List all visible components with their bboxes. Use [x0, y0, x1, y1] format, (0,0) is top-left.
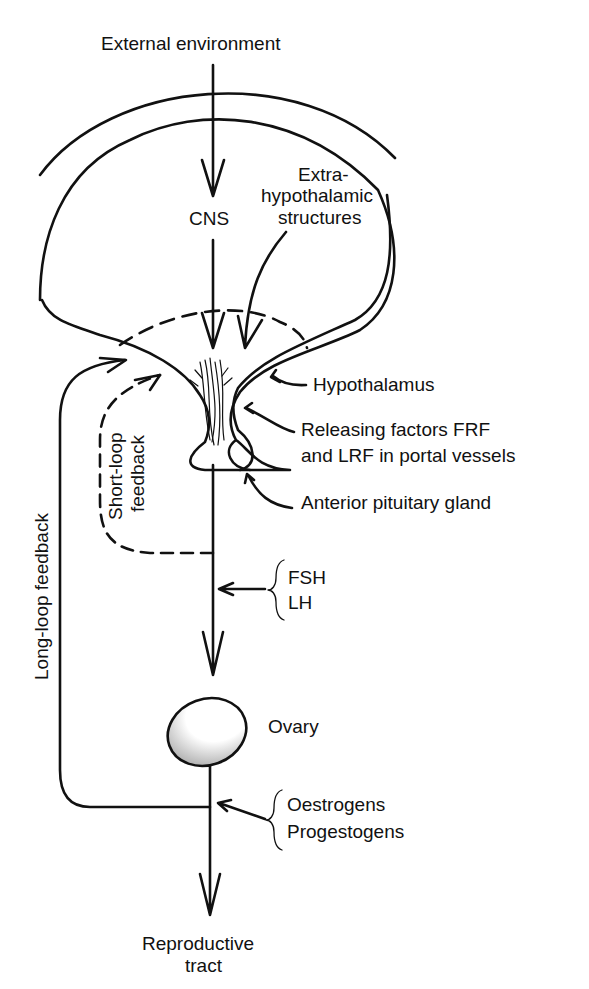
label-reproductive: Reproductive — [142, 933, 254, 954]
label-hypothalamus: Hypothalamus — [313, 374, 434, 395]
label-oestrogens: Oestrogens — [287, 794, 385, 815]
label-tract: tract — [185, 955, 223, 976]
label-long-loop: Long-loop feedback — [31, 513, 52, 680]
label-ovary: Ovary — [268, 716, 319, 737]
label-fsh: FSH — [288, 567, 326, 588]
label-extra-1: Extra- — [298, 164, 349, 185]
label-releasing-factors-1: Releasing factors FRF — [301, 419, 490, 440]
label-short-loop-1: Short-loop — [105, 432, 126, 520]
label-external-environment: External environment — [101, 33, 281, 54]
diagram-labels: External environment CNS Extra- hypothal… — [0, 0, 589, 989]
label-cns: CNS — [189, 208, 229, 229]
label-releasing-factors-2: and LRF in portal vessels — [301, 445, 515, 466]
label-progestogens: Progestogens — [287, 821, 404, 842]
label-lh: LH — [288, 592, 312, 613]
label-short-loop-2: feedback — [127, 434, 148, 512]
label-extra-3: structures — [278, 207, 361, 228]
label-extra-2: hypothalamic — [261, 185, 373, 206]
label-anterior-pituitary: Anterior pituitary gland — [301, 492, 491, 513]
